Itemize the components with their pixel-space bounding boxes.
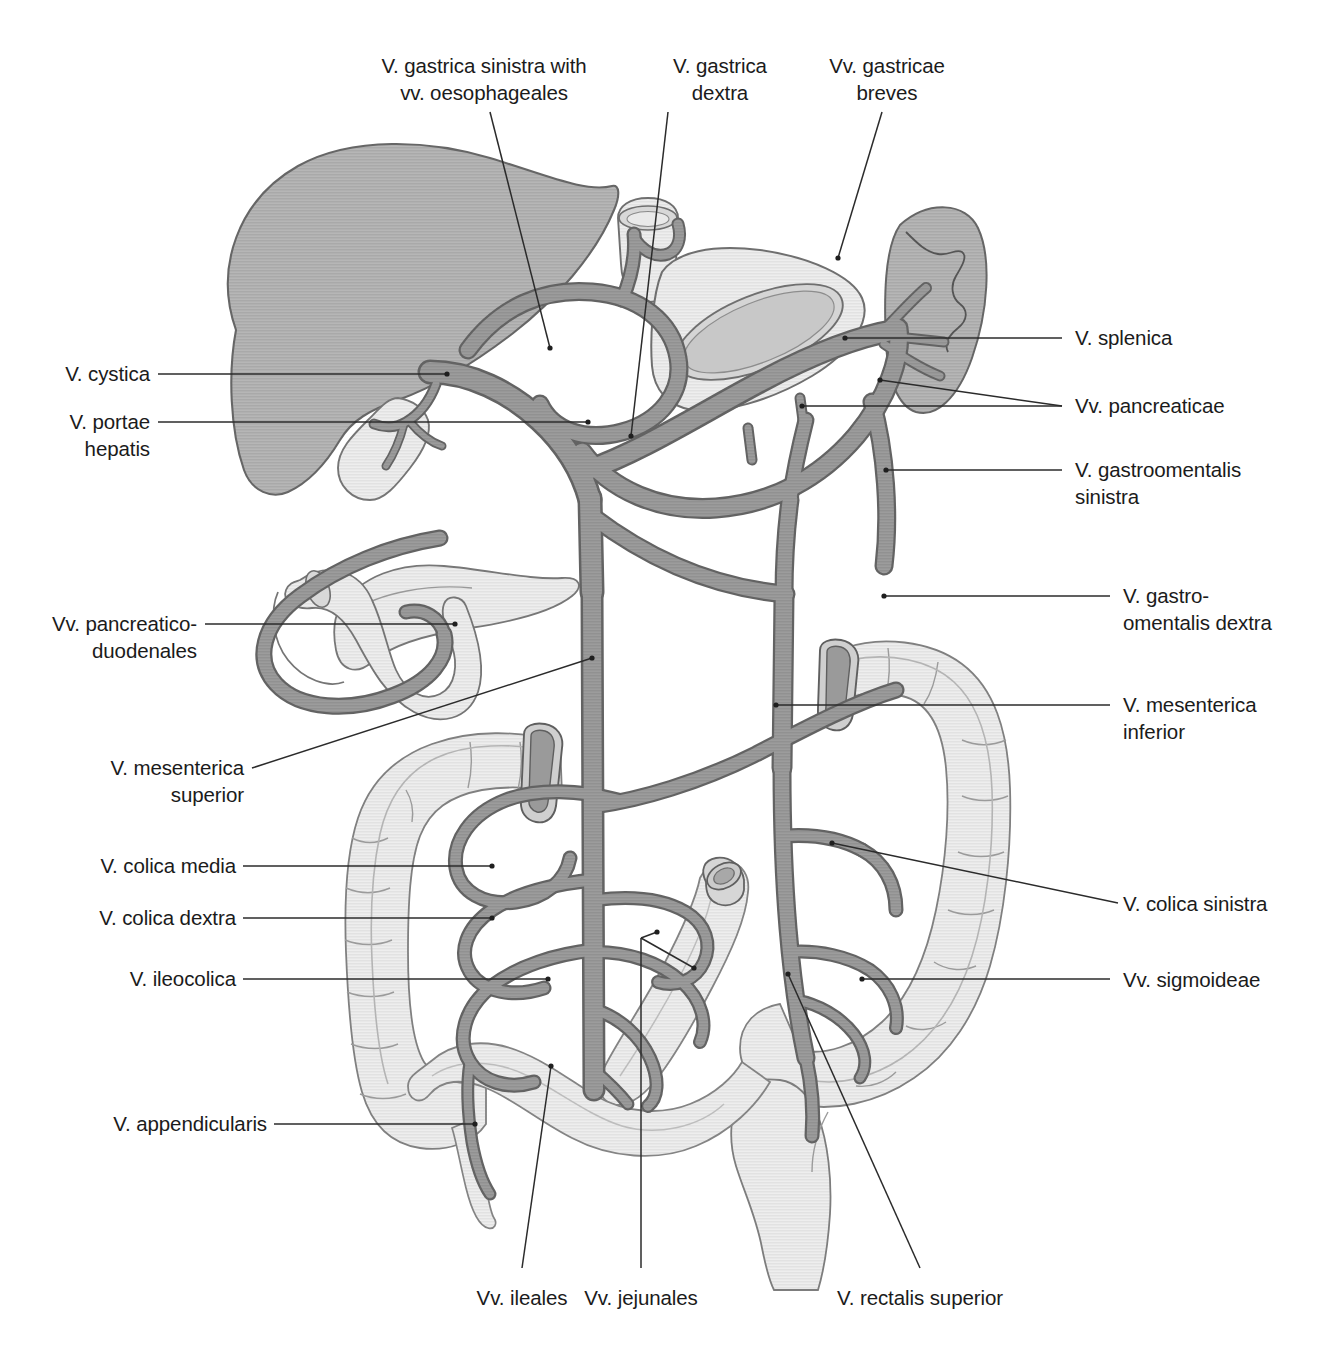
label-vv-pancreaticoduodenales: Vv. pancreatico- duodenales bbox=[0, 610, 197, 664]
label-v-gastrica-dextra: V. gastrica dextra bbox=[640, 52, 800, 106]
label-v-rectalis-superior: V. rectalis superior bbox=[800, 1284, 1040, 1311]
portal-vein-diagram bbox=[0, 0, 1318, 1349]
label-v-ileocolica: V. ileocolica bbox=[0, 965, 236, 992]
label-vv-gastricae-breves: Vv. gastricae breves bbox=[812, 52, 962, 106]
label-v-colica-sinistra: V. colica sinistra bbox=[1123, 890, 1318, 917]
label-v-cystica: V. cystica bbox=[0, 360, 150, 387]
label-v-mesenterica-superior: V. mesenterica superior bbox=[0, 754, 244, 808]
label-v-colica-dextra: V. colica dextra bbox=[0, 904, 236, 931]
label-v-gastrica-sinistra: V. gastrica sinistra with vv. oesophagea… bbox=[376, 52, 592, 106]
label-v-colica-media: V. colica media bbox=[0, 852, 236, 879]
label-v-mesenterica-inferior: V. mesenterica inferior bbox=[1123, 691, 1318, 745]
label-v-splenica: V. splenica bbox=[1075, 324, 1315, 351]
label-vv-sigmoideae: Vv. sigmoideae bbox=[1123, 966, 1318, 993]
label-vv-pancreaticae: Vv. pancreaticae bbox=[1075, 392, 1315, 419]
label-v-gastroomentalis-sinistra: V. gastroomentalis sinistra bbox=[1075, 456, 1318, 510]
label-v-appendicularis: V. appendicularis bbox=[0, 1110, 267, 1137]
jejunum-cut-end bbox=[702, 857, 745, 905]
label-v-portae-hepatis: V. portae hepatis bbox=[0, 408, 150, 462]
label-v-gastroomentalis-dextra: V. gastro- omentalis dextra bbox=[1123, 582, 1318, 636]
label-vv-jejunales: Vv. jejunales bbox=[561, 1284, 721, 1311]
transverse-colon-cut-end bbox=[521, 723, 562, 822]
